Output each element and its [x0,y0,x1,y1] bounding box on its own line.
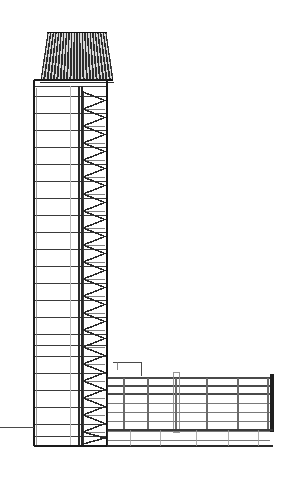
wing-end-pier [270,374,274,432]
architectural-drawing-canvas [0,0,284,477]
building-section-svg [0,0,284,477]
tower-crown-group [40,32,114,82]
